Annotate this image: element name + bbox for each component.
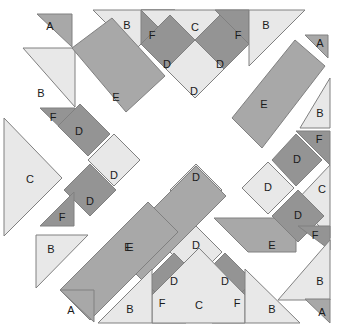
quilt-figure: ABFCFBDDDABEFDCEBFDDCDDFDEEDFBBDDDFFCBBE…: [0, 0, 342, 333]
quilt-canvas: ABFCFBDDDABEFDCEBFDDCDDFDEEDFBBDDDFFCBBE…: [0, 0, 342, 333]
